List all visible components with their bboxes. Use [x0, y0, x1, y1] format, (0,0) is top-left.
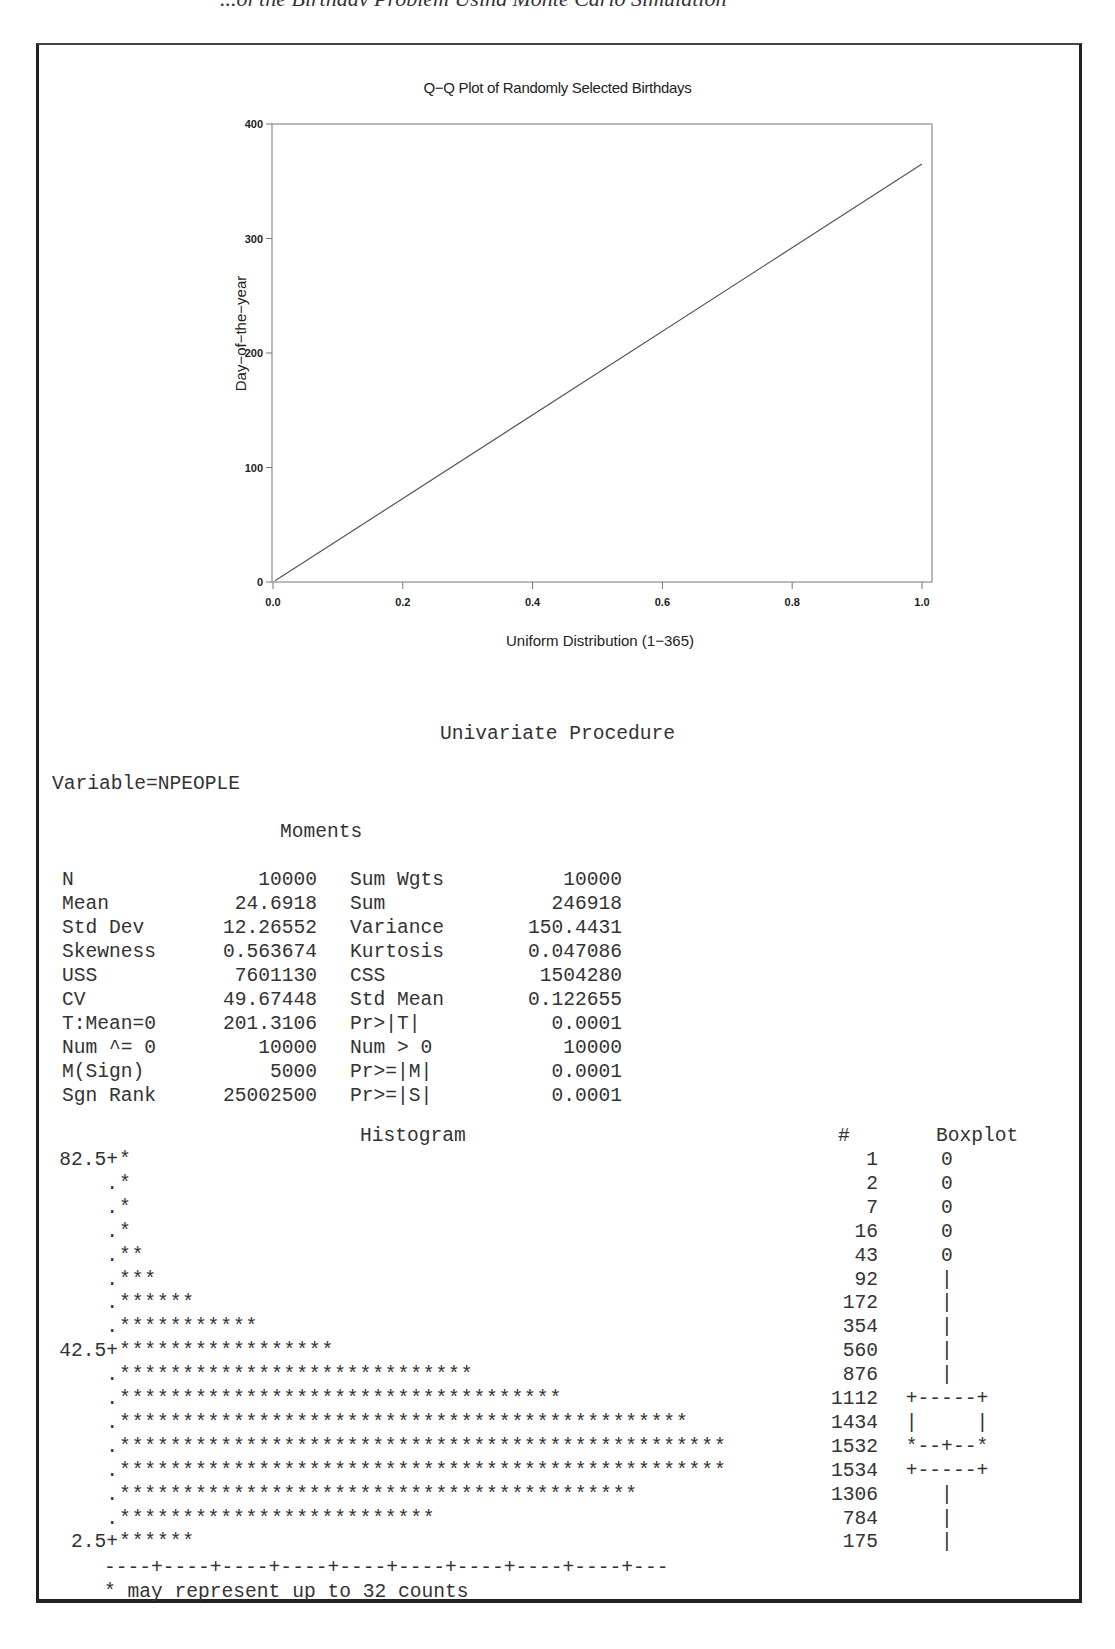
histogram-count: 1534 [782, 1459, 878, 1483]
x-tick-label: 0.6 [655, 596, 670, 608]
histogram-axis-label: . [52, 1172, 118, 1196]
histogram-row: .***************************************… [52, 1483, 1052, 1507]
histogram-row: 2.5+******175| [52, 1530, 1052, 1554]
histogram-bar: * [119, 1148, 132, 1172]
histogram-row: .***92| [52, 1268, 1052, 1292]
moment-value: 49.67448 [223, 988, 317, 1012]
moments-row: Sgn Rank25002500Pr>=|S|0.0001 [62, 1084, 622, 1108]
boxplot-segment: | [902, 1268, 992, 1292]
histogram-count: 92 [782, 1268, 878, 1292]
histogram-bar: ****** [119, 1291, 195, 1315]
histogram-row: .***********354| [52, 1315, 1052, 1339]
histogram-count: 175 [782, 1530, 878, 1554]
moment-label: Sum Wgts [350, 868, 444, 892]
histogram-row: .****************************876| [52, 1363, 1052, 1387]
moment-label: Mean [62, 892, 109, 916]
histogram-title: Histogram [360, 1124, 466, 1148]
plot-area [272, 124, 932, 582]
histogram-row: .*************************784| [52, 1507, 1052, 1531]
y-axis: 0100200300400 [245, 118, 272, 588]
boxplot-header: Boxplot [936, 1124, 1018, 1148]
moments-row: N10000Sum Wgts10000 [62, 868, 622, 892]
x-tick-label: 0.8 [785, 596, 800, 608]
histogram-bar: ***************** [119, 1339, 334, 1363]
moment-label: M(Sign) [62, 1060, 144, 1084]
moment-value: 10000 [563, 1036, 622, 1060]
moments-row: Mean24.6918Sum246918 [62, 892, 622, 916]
moment-value: 201.3106 [223, 1012, 317, 1036]
histogram-axis-label: . [52, 1291, 118, 1315]
moments-row: T:Mean=0201.3106Pr>|T|0.0001 [62, 1012, 622, 1036]
moment-value: 0.563674 [223, 940, 317, 964]
x-axis-label: Uniform Distribution (1−365) [400, 632, 800, 649]
histogram-bar: ****************************************… [119, 1411, 689, 1435]
moment-label: USS [62, 964, 97, 988]
boxplot-segment: +-----+ [902, 1387, 992, 1411]
histogram-axis-label: . [52, 1196, 118, 1220]
moment-value: 7601130 [235, 964, 317, 988]
histogram-count: 7 [782, 1196, 878, 1220]
histogram-count: 1112 [782, 1387, 878, 1411]
histogram-axis-label: . [52, 1220, 118, 1244]
histogram-bar: * [119, 1172, 132, 1196]
moments-row: Skewness0.563674Kurtosis0.047086 [62, 940, 622, 964]
qq-plot: 0100200300400 0.00.20.40.60.81.0 [0, 0, 1115, 700]
histogram-count: 354 [782, 1315, 878, 1339]
histogram-bar: ****************************************… [119, 1435, 727, 1459]
histogram-count: 1434 [782, 1411, 878, 1435]
moment-value: 10000 [563, 868, 622, 892]
moment-label: Std Dev [62, 916, 144, 940]
boxplot-segment: 0 [902, 1148, 992, 1172]
moment-value: 24.6918 [235, 892, 317, 916]
histogram-axis-label: 42.5+ [52, 1339, 118, 1363]
histogram-axis-label: . [52, 1387, 118, 1411]
boxplot-segment: +-----+ [902, 1459, 992, 1483]
histogram-bar: ************************* [119, 1507, 435, 1531]
boxplot-segment: | [902, 1339, 992, 1363]
count-header: # [838, 1124, 850, 1148]
y-tick-label: 100 [245, 462, 263, 474]
x-tick-label: 0.4 [525, 596, 541, 608]
histogram-bar: *********** [119, 1315, 258, 1339]
moments-title: Moments [280, 820, 362, 844]
moment-value: 246918 [551, 892, 622, 916]
histogram-count: 1532 [782, 1435, 878, 1459]
moment-value: 10000 [258, 1036, 317, 1060]
histogram-bar: *********************************** [119, 1387, 562, 1411]
boxplot-segment: | [902, 1363, 992, 1387]
moment-value: 0.0001 [551, 1084, 622, 1108]
histogram-count: 16 [782, 1220, 878, 1244]
histogram-row: .*70 [52, 1196, 1052, 1220]
histogram-count: 1306 [782, 1483, 878, 1507]
moment-value: 0.122655 [528, 988, 622, 1012]
histogram-row: 42.5+*****************560| [52, 1339, 1052, 1363]
histogram-row: .******172| [52, 1291, 1052, 1315]
histogram-row: .***************************************… [52, 1411, 1052, 1435]
moment-value: 1504280 [540, 964, 622, 988]
histogram-row: .**430 [52, 1244, 1052, 1268]
histogram-row: .*20 [52, 1172, 1052, 1196]
histogram-axis-label: . [52, 1315, 118, 1339]
histogram-axis-label: . [52, 1507, 118, 1531]
moment-value: 5000 [270, 1060, 317, 1084]
moment-label: T:Mean=0 [62, 1012, 156, 1036]
histogram-axis-label: . [52, 1363, 118, 1387]
moment-label: Pr>|T| [350, 1012, 421, 1036]
histogram-axis-label: . [52, 1483, 118, 1507]
histogram-count: 1 [782, 1148, 878, 1172]
histogram-count: 172 [782, 1291, 878, 1315]
moment-value: 150.4431 [528, 916, 622, 940]
histogram-axis-label: . [52, 1411, 118, 1435]
moment-label: Sgn Rank [62, 1084, 156, 1108]
x-tick-label: 0.2 [395, 596, 410, 608]
x-axis: 0.00.20.40.60.81.0 [265, 582, 929, 608]
y-tick-label: 400 [245, 118, 263, 130]
moments-row: Std Dev12.26552Variance150.4431 [62, 916, 622, 940]
boxplot-segment: 0 [902, 1244, 992, 1268]
moment-value: 10000 [258, 868, 317, 892]
x-tick-label: 0.0 [265, 596, 280, 608]
moment-label: Skewness [62, 940, 156, 964]
qq-line [275, 164, 922, 581]
histogram-row: 82.5+*10 [52, 1148, 1052, 1172]
moment-label: CSS [350, 964, 385, 988]
